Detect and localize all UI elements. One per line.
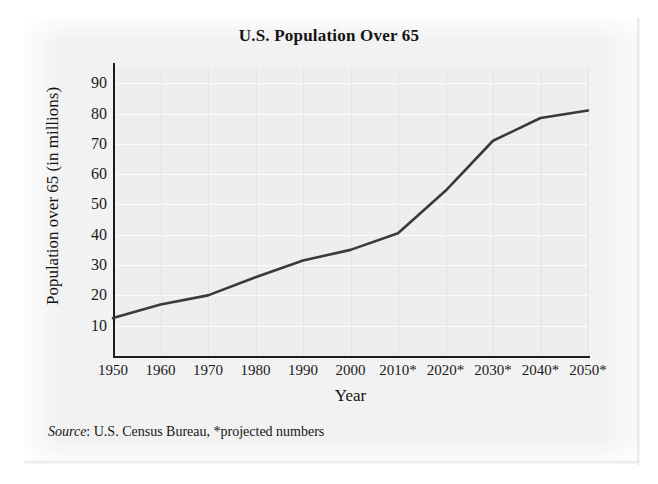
x-axis-line (113, 356, 590, 358)
y-tick-label: 60 (67, 166, 107, 182)
y-tick-label: 20 (67, 287, 107, 303)
page-edge-right (637, 18, 640, 465)
source-text: : U.S. Census Bureau, *projected numbers (86, 424, 324, 439)
x-tick-label: 2050* (558, 362, 618, 379)
y-tick-label: 50 (67, 196, 107, 212)
y-tick-label: 40 (67, 227, 107, 243)
y-tick-label: 70 (67, 136, 107, 152)
y-tick-label: 90 (67, 75, 107, 91)
x-axis-title: Year (113, 386, 588, 406)
y-tick-label: 10 (67, 318, 107, 334)
y-axis-title: Population over 65 (in millions) (43, 46, 63, 346)
source-note: Source: U.S. Census Bureau, *projected n… (48, 424, 324, 440)
page-edge-bottom (24, 461, 640, 464)
y-tick-label: 30 (67, 257, 107, 273)
x-axis-tick-labels: 1950196019701980199020002010*2020*2030*2… (113, 362, 613, 384)
source-label: Source (48, 424, 86, 439)
y-tick-label: 80 (67, 106, 107, 122)
chart-page: U.S. Population Over 65 9080706050403020… (0, 0, 658, 484)
y-axis-tick-labels: 908070605040302010 (63, 68, 107, 356)
plot-region (113, 68, 588, 356)
chart-title: U.S. Population Over 65 (0, 26, 658, 46)
data-series-line (113, 68, 588, 356)
